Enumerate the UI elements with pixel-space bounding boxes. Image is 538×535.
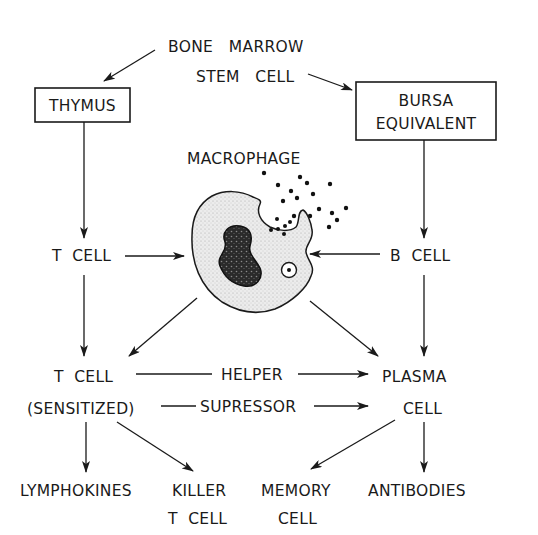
bursa-label-line2: EQUIVALENT — [376, 115, 477, 133]
macrophage-label: MACROPHAGE — [187, 150, 301, 168]
memory-cell-label: CELL — [278, 510, 317, 528]
node-memory-cell: MEMORY CELL — [261, 482, 331, 528]
supressor-label: SUPRESSOR — [200, 398, 296, 416]
sensitized-qualifier-label: (SENSITIZED) — [27, 400, 135, 418]
node-thymus: THYMUS — [35, 88, 130, 122]
node-plasma-cell: PLASMA CELL — [382, 368, 447, 418]
t-cell-label: T CELL — [51, 247, 111, 265]
arrow-plasma-to-memory — [311, 420, 395, 469]
memory-label: MEMORY — [261, 482, 331, 500]
b-cell-label: B CELL — [390, 247, 451, 265]
helper-label: HELPER — [221, 366, 283, 384]
killer-label: KILLER — [172, 482, 226, 500]
bone-marrow-label: BONE MARROW — [168, 38, 304, 56]
bursa-label-line1: BURSA — [399, 92, 454, 110]
plasma-cell-label: CELL — [403, 400, 442, 418]
arrow-source-to-bursa — [308, 74, 352, 90]
plasma-label: PLASMA — [382, 368, 447, 386]
macrophage-cell — [192, 192, 313, 313]
node-t-cell-sensitized: T CELL (SENSITIZED) — [27, 368, 135, 418]
node-killer-t-cell: KILLER T CELL — [167, 482, 227, 528]
flowchart-svg: BONE MARROW STEM CELL THYMUS BURSA EQUIV… — [0, 0, 538, 535]
arrow-macrophage-to-sensitized — [129, 298, 197, 356]
diagram-canvas: BONE MARROW STEM CELL THYMUS BURSA EQUIV… — [0, 0, 538, 535]
thymus-label: THYMUS — [48, 97, 116, 115]
node-bursa-equivalent: BURSA EQUIVALENT — [356, 82, 496, 140]
arrow-macrophage-to-plasma — [310, 301, 378, 356]
stem-cell-label: STEM CELL — [196, 68, 295, 86]
cytoplasm — [192, 192, 313, 313]
killer-t-cell-label: T CELL — [167, 510, 227, 528]
arrow-source-to-thymus — [104, 50, 155, 81]
lymphokines-label: LYMPHOKINES — [20, 482, 132, 500]
node-bone-marrow-stem-cell: BONE MARROW STEM CELL — [168, 38, 304, 86]
sensitized-t-cell-label: T CELL — [53, 368, 113, 386]
antibodies-label: ANTIBODIES — [368, 482, 466, 500]
arrow-sensitized-to-killer — [117, 422, 193, 471]
